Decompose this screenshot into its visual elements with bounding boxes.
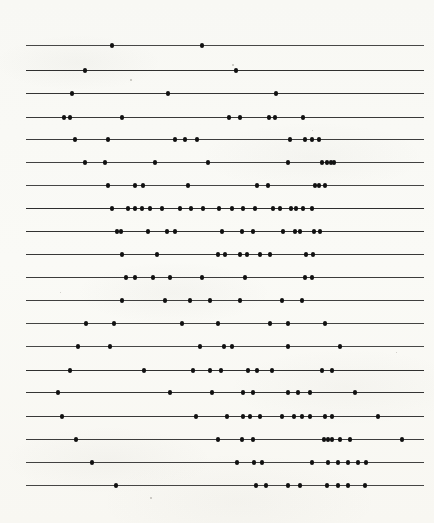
- event-dot: [376, 414, 380, 418]
- event-dot: [286, 390, 290, 394]
- raster-row: [0, 456, 434, 470]
- scan-speck: [232, 64, 234, 66]
- event-dot: [108, 344, 112, 348]
- event-dot: [271, 206, 275, 210]
- event-dot: [400, 437, 404, 441]
- event-dot: [124, 275, 128, 279]
- event-dot: [153, 160, 157, 164]
- event-dot: [280, 298, 284, 302]
- event-dot: [318, 229, 322, 233]
- event-dot: [293, 229, 297, 233]
- event-dot: [120, 298, 124, 302]
- event-dot: [68, 115, 72, 119]
- event-dot: [255, 183, 259, 187]
- event-dot: [338, 437, 342, 441]
- event-dot: [222, 344, 226, 348]
- event-dot: [304, 252, 308, 256]
- event-dot: [330, 368, 334, 372]
- raster-row: [0, 433, 434, 447]
- event-dot: [258, 252, 262, 256]
- event-dot: [178, 206, 182, 210]
- event-dot: [348, 437, 352, 441]
- event-dot: [120, 252, 124, 256]
- event-dot: [281, 229, 285, 233]
- event-dot: [166, 91, 170, 95]
- event-dot: [289, 206, 293, 210]
- event-dot: [326, 460, 330, 464]
- event-dot: [268, 252, 272, 256]
- raster-baseline: [26, 300, 424, 301]
- raster-baseline: [26, 277, 424, 278]
- event-dot: [133, 183, 137, 187]
- event-dot: [165, 229, 169, 233]
- event-dot: [286, 321, 290, 325]
- event-dot: [280, 414, 284, 418]
- event-dot: [246, 368, 250, 372]
- raster-row: [0, 156, 434, 170]
- event-dot: [245, 252, 249, 256]
- event-dot: [195, 137, 199, 141]
- event-dot: [363, 483, 367, 487]
- event-dot: [332, 160, 336, 164]
- event-dot: [336, 460, 340, 464]
- raster-row: [0, 179, 434, 193]
- event-dot: [110, 206, 114, 210]
- event-dot: [241, 390, 245, 394]
- raster-baseline: [26, 117, 424, 118]
- event-dot: [346, 483, 350, 487]
- event-dot: [216, 437, 220, 441]
- event-dot: [173, 229, 177, 233]
- raster-row: [0, 386, 434, 400]
- event-dot: [303, 275, 307, 279]
- event-dot: [201, 206, 205, 210]
- event-dot: [241, 206, 245, 210]
- event-dot: [119, 229, 123, 233]
- event-dot: [112, 321, 116, 325]
- event-dot: [238, 115, 242, 119]
- raster-row: [0, 340, 434, 354]
- event-dot: [303, 137, 307, 141]
- event-dot: [210, 390, 214, 394]
- event-dot: [286, 344, 290, 348]
- event-dot: [300, 298, 304, 302]
- event-dot: [180, 321, 184, 325]
- event-dot: [83, 68, 87, 72]
- raster-baseline: [26, 231, 424, 232]
- event-dot: [200, 43, 204, 47]
- event-dot: [311, 252, 315, 256]
- event-dot: [74, 437, 78, 441]
- event-dot: [168, 390, 172, 394]
- event-dot: [253, 206, 257, 210]
- event-dot: [317, 183, 321, 187]
- scan-speck: [130, 79, 132, 81]
- event-dot: [234, 68, 238, 72]
- event-dot: [251, 437, 255, 441]
- event-dot: [126, 206, 130, 210]
- raster-row: [0, 202, 434, 216]
- event-dot: [188, 298, 192, 302]
- raster-row: [0, 64, 434, 78]
- event-dot: [90, 460, 94, 464]
- event-dot: [298, 229, 302, 233]
- event-dot: [243, 275, 247, 279]
- event-dot: [330, 414, 334, 418]
- event-dot: [268, 321, 272, 325]
- event-dot: [155, 252, 159, 256]
- event-dot: [270, 368, 274, 372]
- raster-baseline: [26, 93, 424, 94]
- raster-baseline: [26, 139, 424, 140]
- event-dot: [346, 460, 350, 464]
- event-dot: [238, 252, 242, 256]
- event-dot: [194, 414, 198, 418]
- event-dot: [300, 414, 304, 418]
- raster-row: [0, 294, 434, 308]
- event-dot: [320, 160, 324, 164]
- event-dot: [260, 460, 264, 464]
- event-dot: [258, 414, 262, 418]
- event-dot: [238, 298, 242, 302]
- event-dot: [141, 183, 145, 187]
- event-dot: [76, 344, 80, 348]
- event-dot: [254, 483, 258, 487]
- event-dot: [310, 275, 314, 279]
- raster-row: [0, 133, 434, 147]
